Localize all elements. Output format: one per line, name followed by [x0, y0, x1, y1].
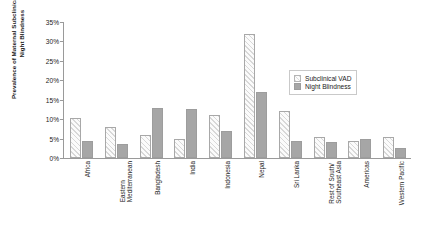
- x-axis-line: [63, 158, 411, 159]
- y-axis-title: Prevalence of Maternal Subclinical VAD a…: [10, 0, 25, 104]
- bar-subclinical-vad: [244, 34, 255, 158]
- legend-label-night-blindness: Night Blindness: [305, 83, 351, 90]
- legend-item-night-blindness: Night Blindness: [294, 83, 351, 90]
- y-axis-tick-mark: [60, 119, 63, 120]
- legend-swatch-night-blindness: [294, 83, 301, 90]
- x-axis-label: Americas: [363, 161, 370, 188]
- x-axis-label: Indonesia: [224, 161, 231, 189]
- x-axis-label: Rest of South/ Southeast Asia: [328, 161, 343, 204]
- x-axis-label: Bangladesh: [154, 161, 161, 195]
- bar-subclinical-vad: [209, 115, 220, 158]
- x-axis-label: Eastern Mediterranean: [119, 161, 134, 202]
- bar-subclinical-vad: [383, 137, 394, 158]
- bar-group: [244, 22, 267, 158]
- bar-night-blindness: [221, 131, 232, 158]
- bar-group: [383, 22, 406, 158]
- bar-subclinical-vad: [105, 127, 116, 158]
- bar-group: [70, 22, 93, 158]
- y-axis-tick-mark: [60, 61, 63, 62]
- y-axis-tick-mark: [60, 22, 63, 23]
- bar-subclinical-vad: [140, 135, 151, 158]
- bar-night-blindness: [326, 142, 337, 158]
- bar-subclinical-vad: [174, 139, 185, 158]
- x-axis-labels: AfricaEastern MediterraneanBangladeshInd…: [63, 161, 411, 251]
- bar-subclinical-vad: [314, 137, 325, 158]
- x-axis-label: Africa: [84, 161, 91, 177]
- bar-subclinical-vad: [279, 111, 290, 158]
- bar-group: [140, 22, 163, 158]
- legend-item-subclinical-vad: Subclinical VAD: [294, 75, 351, 82]
- bar-night-blindness: [82, 141, 93, 158]
- bar-night-blindness: [256, 92, 267, 158]
- y-axis-tick-mark: [60, 139, 63, 140]
- bar-subclinical-vad: [70, 118, 81, 158]
- bar-chart: Prevalence of Maternal Subclinical VAD a…: [0, 0, 421, 252]
- y-axis-tick-mark: [60, 80, 63, 81]
- bar-subclinical-vad: [348, 141, 359, 158]
- bar-night-blindness: [360, 139, 371, 158]
- bar-night-blindness: [117, 144, 128, 158]
- y-axis-tick-mark: [60, 41, 63, 42]
- y-axis-tick-mark: [60, 100, 63, 101]
- bar-night-blindness: [395, 148, 406, 158]
- bar-group: [105, 22, 128, 158]
- x-axis-label: Western Pacific: [398, 161, 405, 205]
- x-axis-label: Sri Lanka: [293, 161, 300, 188]
- legend-swatch-subclinical-vad: [294, 75, 301, 82]
- legend-label-subclinical-vad: Subclinical VAD: [305, 75, 351, 82]
- bar-night-blindness: [291, 141, 302, 158]
- chart-legend: Subclinical VAD Night Blindness: [289, 70, 357, 95]
- bar-night-blindness: [186, 109, 197, 158]
- x-axis-label: Nepal: [258, 161, 265, 178]
- y-axis-line: [63, 22, 64, 158]
- bar-group: [209, 22, 232, 158]
- x-axis-label: India: [189, 161, 196, 175]
- plot-area: 0%5%10%15%20%25%30%35%: [63, 22, 411, 158]
- bar-group: [174, 22, 197, 158]
- bar-night-blindness: [152, 108, 163, 159]
- y-axis-tick-mark: [60, 158, 63, 159]
